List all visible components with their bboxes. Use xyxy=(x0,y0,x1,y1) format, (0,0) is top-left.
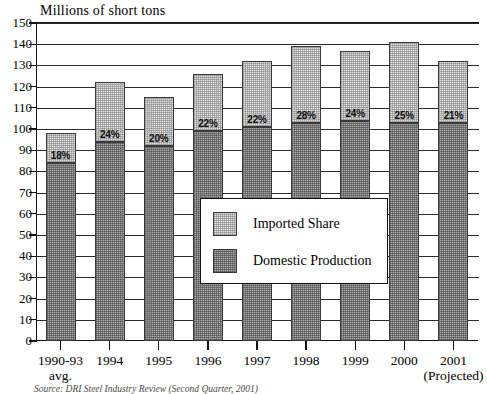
x-axis-tick-mark xyxy=(158,341,159,350)
bar-segment-domestic-production xyxy=(46,163,76,341)
y-axis-tick-label: 150 xyxy=(0,16,32,29)
x-axis-tick-label-line1: 1997 xyxy=(243,353,270,368)
y-axis-tick-mark xyxy=(29,213,37,214)
bar-segment-domestic-production xyxy=(389,123,419,341)
y-axis-tick-mark xyxy=(29,298,37,299)
y-axis-tick-mark xyxy=(29,277,37,278)
bar-percent-label: 22% xyxy=(193,119,223,129)
bar-percent-label: 24% xyxy=(95,130,125,140)
y-axis-tick-label: 20 xyxy=(0,292,32,305)
legend-label-imported-share: Imported Share xyxy=(253,216,340,232)
bar-percent-label: 24% xyxy=(340,109,370,119)
x-axis-tick-label-line1: 1995 xyxy=(145,353,172,368)
y-axis-tick-mark xyxy=(29,319,37,320)
y-axis-tick-label: 70 xyxy=(0,186,32,199)
y-axis-tick-mark xyxy=(29,234,37,235)
x-axis-tick-label-line1: 1994 xyxy=(96,353,123,368)
y-axis-tick-label: 30 xyxy=(0,270,32,283)
y-axis-tick-label: 60 xyxy=(0,207,32,220)
x-axis-tick-label-line2: (Projected) xyxy=(423,368,484,383)
y-axis-tick-label: 110 xyxy=(0,101,32,114)
y-axis-tick-label: 10 xyxy=(0,313,32,326)
x-axis-tick-mark xyxy=(60,341,61,350)
y-axis-tick-mark xyxy=(29,22,37,23)
source-note: Source: DRI Steel Industry Review (Secon… xyxy=(34,384,258,394)
y-axis-tick-label: 90 xyxy=(0,143,32,156)
bar-column: 20% xyxy=(144,97,174,341)
bar-percent-label: 20% xyxy=(144,134,174,144)
bar-column: 24% xyxy=(340,51,370,341)
legend-item-imported-share: Imported Share xyxy=(213,212,340,236)
bar-column: 25% xyxy=(389,42,419,341)
x-axis-tick-label-line2: avg. xyxy=(30,368,91,383)
legend-swatch-domestic-production xyxy=(213,249,237,273)
bar-segment-domestic-production xyxy=(438,123,468,341)
bar-segment-domestic-production xyxy=(144,146,174,341)
y-axis-tick-mark xyxy=(29,340,37,341)
x-axis-tick-label-line1: 1990-93 xyxy=(38,353,83,368)
x-axis-tick-mark xyxy=(256,341,257,350)
gridline xyxy=(37,23,479,24)
x-axis-tick-label-line1: 2000 xyxy=(391,353,418,368)
y-axis-tick-mark xyxy=(29,150,37,151)
bar-percent-label: 28% xyxy=(291,111,321,121)
bar-percent-label: 18% xyxy=(46,151,76,161)
x-axis-tick-mark xyxy=(109,341,110,350)
y-axis-tick-mark xyxy=(29,171,37,172)
y-axis-tick-label: 80 xyxy=(0,164,32,177)
x-axis-tick-mark xyxy=(404,341,405,350)
bar-column: 21% xyxy=(438,61,468,341)
bar-column: 18% xyxy=(46,133,76,341)
x-axis-tick-label-line1: 1998 xyxy=(293,353,320,368)
y-axis-tick-label: 40 xyxy=(0,249,32,262)
y-axis-tick-label: 100 xyxy=(0,122,32,135)
legend-item-domestic-production: Domestic Production xyxy=(213,249,372,273)
y-axis-tick-label: 50 xyxy=(0,228,32,241)
y-axis-tick-mark xyxy=(29,192,37,193)
y-axis-tick-mark xyxy=(29,256,37,257)
bar-column: 24% xyxy=(95,82,125,341)
bar-percent-label: 25% xyxy=(389,111,419,121)
y-axis-tick-label: 0 xyxy=(0,334,32,347)
y-axis-tick-mark xyxy=(29,65,37,66)
y-axis-tick-mark xyxy=(29,107,37,108)
chart-legend: Imported Share Domestic Production xyxy=(200,198,388,284)
x-axis-tick-label-line1: 1999 xyxy=(342,353,369,368)
x-axis-tick-mark xyxy=(453,341,454,350)
bar-percent-label: 22% xyxy=(242,115,272,125)
chart-title: Millions of short tons xyxy=(40,3,165,19)
y-axis-tick-mark xyxy=(29,44,37,45)
x-axis-tick-mark xyxy=(355,341,356,350)
bar-percent-label: 21% xyxy=(438,111,468,121)
y-axis-tick-label: 140 xyxy=(0,37,32,50)
x-axis-tick-label-line1: 2001 xyxy=(440,353,467,368)
legend-swatch-imported-share xyxy=(213,212,237,236)
x-axis-tick-label-line1: 1996 xyxy=(194,353,221,368)
bar-column: 28% xyxy=(291,46,321,341)
x-axis-tick-label: 2001(Projected) xyxy=(423,353,484,383)
y-axis-tick-label: 130 xyxy=(0,58,32,71)
y-axis-tick-mark xyxy=(29,86,37,87)
y-axis-tick-label: 120 xyxy=(0,80,32,93)
x-axis-tick-mark xyxy=(305,341,306,350)
x-axis-tick-mark xyxy=(207,341,208,350)
legend-label-domestic-production: Domestic Production xyxy=(253,253,372,269)
y-axis-tick-mark xyxy=(29,128,37,129)
bar-segment-domestic-production xyxy=(95,142,125,341)
